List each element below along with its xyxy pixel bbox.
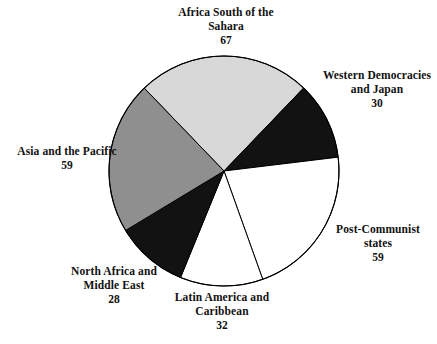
slice-label-western-democracies-and-japan: Western Democracies and Japan 30: [318, 68, 436, 110]
slice-label-line2: Sahara: [208, 20, 244, 32]
slice-value: 32: [152, 318, 292, 332]
pie-chart-figure: Africa South of the Sahara 67 Western De…: [0, 0, 437, 344]
slice-label-asia-and-the-pacific: Asia and the Pacific 59: [2, 144, 132, 172]
slice-value: 67: [136, 33, 316, 47]
slice-label-line1: Latin America and: [175, 291, 269, 303]
slice-label-africa-south-of-sahara: Africa South of the Sahara 67: [136, 5, 316, 47]
slice-label-north-africa-and-middle-east: North Africa and Middle East 28: [44, 264, 184, 306]
slice-label-line1: Western Democracies: [323, 69, 431, 81]
slice-label-line1: Africa South of the: [178, 6, 274, 18]
slice-value: 59: [2, 158, 132, 172]
slice-value: 30: [318, 96, 436, 110]
slice-label-line1: North Africa and: [71, 265, 157, 277]
slice-label-line2: Middle East: [84, 279, 145, 291]
slice-label-line2: and Japan: [351, 83, 403, 95]
slice-value: 59: [322, 250, 434, 264]
slice-label-line2: states: [364, 237, 392, 249]
slice-label-line1: Post-Communist: [336, 223, 420, 235]
slice-value: 28: [44, 292, 184, 306]
slice-label-line1: Asia and the Pacific: [17, 145, 116, 157]
slice-label-post-communist-states: Post-Communist states 59: [322, 222, 434, 264]
slice-label-line2: Caribbean: [195, 305, 248, 317]
